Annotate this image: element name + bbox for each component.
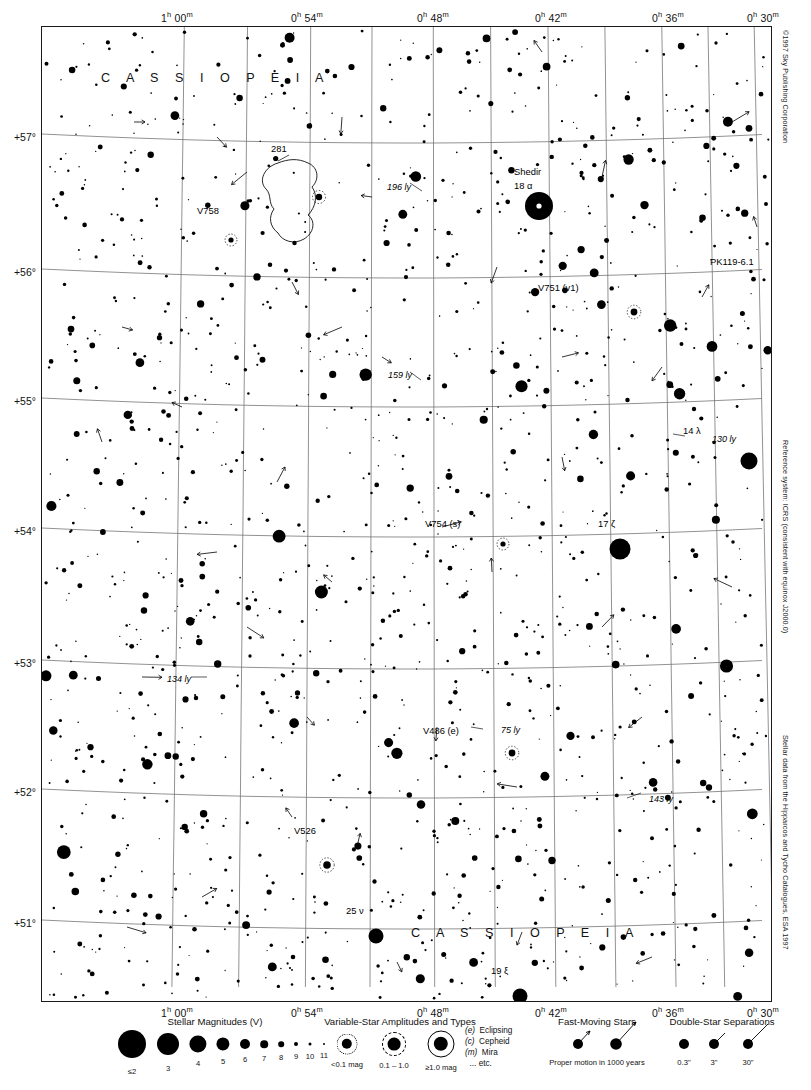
- credit-copyright: ©1997 Sky Publishing Corporation: [781, 30, 790, 143]
- credit-data-source: Stellar data from the Hipparcos and Tych…: [781, 735, 790, 950]
- variable-type-row: (c) Cepheid: [465, 1037, 510, 1046]
- magnitude-label-7: 7: [262, 1054, 266, 1063]
- label-17-zeta: 17 ζ: [598, 518, 615, 529]
- label-159ly: 159 ly: [388, 370, 412, 380]
- dec-tick-label: +52°: [2, 786, 36, 798]
- magnitude-dot-5: [216, 1037, 229, 1050]
- label-130ly: 130 ly: [712, 434, 736, 444]
- magnitude-dot-7: [260, 1040, 268, 1048]
- ra-tick-label: 1h 00m: [161, 10, 193, 24]
- label-143ly: 143 ly: [649, 794, 673, 804]
- dec-tick-label: +51°: [2, 917, 36, 929]
- legend-fastmoving-title: Fast-Moving Stars: [558, 1016, 636, 1027]
- variable-amplitude-label: ≥1.0 mag: [425, 1063, 457, 1072]
- variable-amplitude-ring: [382, 1032, 406, 1056]
- credit-reference-system: Reference system: ICRS (consistent with …: [781, 440, 790, 633]
- label-14-lambda: 14 λ: [683, 425, 701, 436]
- legend-variables-title: Variable-Star Amplitudes and Types: [324, 1016, 476, 1027]
- ra-tick-label: 0h 48m: [417, 10, 449, 24]
- magnitude-dot-10: [309, 1043, 312, 1046]
- magnitude-label-8: 8: [279, 1053, 283, 1062]
- label-pk119: PK119-6.1: [710, 256, 754, 267]
- label-75ly: 75 ly: [501, 725, 520, 735]
- dec-tick-label: +57°: [2, 131, 36, 143]
- label-v751: V751 (v1): [538, 282, 579, 293]
- magnitude-dot-6: [240, 1039, 250, 1049]
- star-field-svg: [42, 27, 772, 1002]
- label-ic281: 281: [271, 143, 287, 154]
- magnitude-dot-11: [323, 1043, 325, 1045]
- magnitude-dot-≤2: [118, 1030, 146, 1058]
- ra-tick-label: 0h 30m: [747, 10, 779, 24]
- variable-type-code: (m): [465, 1048, 477, 1057]
- label-196ly: 196 ly: [387, 182, 411, 192]
- label-25-nu: 25 ν: [346, 905, 364, 916]
- label-19-xi: 19 ξ: [491, 965, 508, 976]
- label-shedir: Shedir: [514, 166, 541, 177]
- magnitude-label-6: 6: [243, 1055, 247, 1064]
- variable-type-code: (c): [465, 1037, 475, 1046]
- label-v486: V486 (e): [423, 725, 459, 736]
- legend-doubles-title: Double-Star Separations: [669, 1016, 774, 1027]
- chart-legend: 65 85 ▼ Stellar Magnitudes (V)≤234567891…: [0, 1010, 811, 1090]
- variable-amplitude-ring: [428, 1031, 455, 1058]
- dec-tick-label: +56°: [2, 266, 36, 278]
- variable-type-row: ... etc.: [465, 1059, 492, 1068]
- dec-tick-label: +55°: [2, 395, 36, 407]
- magnitude-dot-4: [189, 1035, 206, 1052]
- variable-type-row: (e) Eclipsing: [465, 1026, 512, 1035]
- ra-tick-label: 0h 54m: [291, 10, 323, 24]
- star-chart-page: 1h 00m0h 54m0h 48m0h 42m0h 36m0h 30m 1h …: [0, 0, 811, 1090]
- label-18-alpha: 18 α: [514, 180, 532, 191]
- magnitude-label-≤2: ≤2: [128, 1067, 136, 1076]
- magnitude-label-11: 11: [320, 1051, 328, 1060]
- ra-tick-label: 0h 42m: [535, 10, 567, 24]
- constellation-label: C A S S I O P E I A: [101, 71, 330, 85]
- magnitude-label-3: 3: [166, 1064, 170, 1073]
- dec-tick-label: +53°: [2, 657, 36, 669]
- magnitude-dot-9: [294, 1042, 298, 1046]
- magnitude-label-5: 5: [221, 1057, 225, 1066]
- variable-amplitude-ring: [337, 1034, 358, 1055]
- magnitude-dot-3: [157, 1033, 179, 1055]
- legend-magnitudes-title: Stellar Magnitudes (V): [168, 1016, 263, 1027]
- variable-amplitude-label: <0.1 mag: [331, 1060, 363, 1069]
- label-134ly: 134 ly: [167, 674, 191, 684]
- variable-amplitude-label: 0.1 – 1.0: [379, 1061, 409, 1070]
- ra-tick-label: 0h 36m: [652, 10, 684, 24]
- variable-type-name: Mira: [482, 1048, 498, 1057]
- constellation-label: C A S S I O P E I A: [411, 926, 640, 940]
- double-separation-label: 0.3": [677, 1058, 690, 1067]
- label-v758: V758: [197, 205, 219, 216]
- double-separation-label: 3": [711, 1058, 718, 1067]
- label-v526: V526: [294, 825, 316, 836]
- variable-type-code: (e): [465, 1026, 475, 1035]
- variable-type-name: Eclipsing: [480, 1026, 513, 1035]
- variable-type-name: ... etc.: [470, 1059, 492, 1068]
- sky-map[interactable]: Shedir18 αV758281196 lyPK119-6.1V751 (v1…: [41, 26, 772, 1002]
- legend-fastmoving-caption: Proper motion in 1000 years: [549, 1058, 644, 1067]
- magnitude-label-4: 4: [196, 1059, 200, 1068]
- variable-type-row: (m) Mira: [465, 1048, 498, 1057]
- magnitude-label-9: 9: [294, 1052, 298, 1061]
- variable-type-name: Cepheid: [479, 1037, 510, 1046]
- double-separation-label: 30": [742, 1058, 753, 1067]
- dec-tick-label: +54°: [2, 525, 36, 537]
- magnitude-dot-8: [278, 1041, 284, 1047]
- magnitude-label-10: 10: [306, 1052, 314, 1061]
- label-v754: V754 (s): [425, 518, 460, 529]
